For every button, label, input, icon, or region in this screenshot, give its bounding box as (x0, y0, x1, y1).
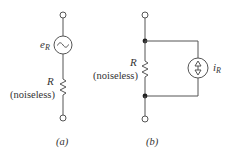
circuit-a: eR R (noiseless) (a) (10, 12, 72, 148)
resistor-note-b: (noiseless) (93, 70, 138, 82)
top-terminal-a (60, 12, 66, 18)
resistor-icon (142, 61, 148, 77)
bottom-terminal-a (60, 115, 66, 121)
source-label-a: eR (40, 38, 50, 52)
source-label-b: iR (213, 61, 221, 75)
caption-a: (a) (56, 136, 69, 148)
ac-voltage-source-icon (54, 36, 72, 54)
resistor-note-a: (noiseless) (10, 89, 55, 101)
current-source-icon (188, 58, 208, 78)
resistor-icon (60, 79, 66, 95)
resistor-label-a: R (46, 75, 54, 87)
circuit-b: R (noiseless) iR (b) (93, 12, 221, 148)
bottom-terminal-b (142, 116, 148, 122)
noise-models-diagram: eR R (noiseless) (a) R (noiseless) iR (b… (0, 0, 235, 156)
top-terminal-b (142, 12, 148, 18)
resistor-label-b: R (129, 56, 137, 68)
caption-b: (b) (146, 136, 159, 148)
